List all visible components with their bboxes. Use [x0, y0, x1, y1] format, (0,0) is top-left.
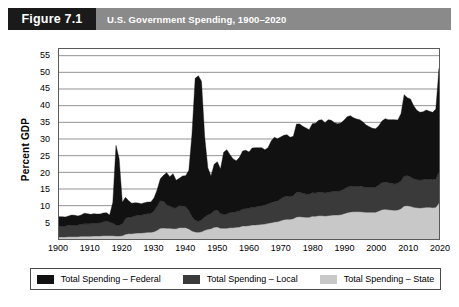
x-tick-label: 1940 — [175, 243, 195, 253]
chart-area: Percent GDP 510152025303540455055 190019… — [8, 36, 451, 299]
legend-label: Total Spending – Federal — [61, 274, 161, 284]
legend-item[interactable]: Total Spending – Federal — [37, 274, 161, 284]
x-tick-label: 1920 — [112, 243, 132, 253]
y-tick-label: 50 — [40, 67, 50, 77]
legend-swatch — [320, 275, 337, 284]
figure-title: U.S. Government Spending, 1900–2020 — [96, 8, 451, 30]
y-axis-tick-labels: 510152025303540455055 — [8, 48, 54, 240]
legend-swatch — [183, 275, 200, 284]
x-tick-label: 2020 — [430, 243, 450, 253]
x-tick-label: 1980 — [303, 243, 323, 253]
legend-label: Total Spending – State — [344, 274, 435, 284]
figure-root: Figure 7.1 U.S. Government Spending, 190… — [0, 0, 459, 307]
legend-swatch — [37, 275, 54, 284]
stacked-area-plot — [59, 49, 439, 239]
y-tick-label: 40 — [40, 100, 50, 110]
y-tick-label: 15 — [40, 184, 50, 194]
figure-number-tag: Figure 7.1 — [8, 8, 96, 30]
y-tick-label: 25 — [40, 151, 50, 161]
x-tick-label: 1900 — [48, 243, 68, 253]
x-tick-label: 1950 — [207, 243, 227, 253]
legend-label: Total Spending – Local — [207, 274, 298, 284]
y-tick-label: 30 — [40, 134, 50, 144]
x-tick-label: 2000 — [366, 243, 386, 253]
y-tick-label: 55 — [40, 50, 50, 60]
chart-legend: Total Spending – FederalTotal Spending –… — [30, 268, 441, 290]
y-tick-label: 20 — [40, 168, 50, 178]
y-tick-label: 5 — [45, 218, 50, 228]
legend-item[interactable]: Total Spending – Local — [183, 274, 298, 284]
x-tick-label: 1910 — [80, 243, 100, 253]
x-axis-tick-labels: 1900191019201930194019501960197019801990… — [58, 243, 440, 259]
y-tick-label: 45 — [40, 83, 50, 93]
y-tick-label: 10 — [40, 201, 50, 211]
x-tick-label: 1970 — [271, 243, 291, 253]
legend-item[interactable]: Total Spending – State — [320, 274, 435, 284]
figure-header-band: Figure 7.1 U.S. Government Spending, 190… — [8, 8, 451, 30]
x-tick-label: 1960 — [239, 243, 259, 253]
x-tick-label: 1990 — [334, 243, 354, 253]
y-tick-label: 35 — [40, 117, 50, 127]
plot-frame — [58, 48, 440, 240]
x-tick-label: 2010 — [398, 243, 418, 253]
x-tick-label: 1930 — [143, 243, 163, 253]
